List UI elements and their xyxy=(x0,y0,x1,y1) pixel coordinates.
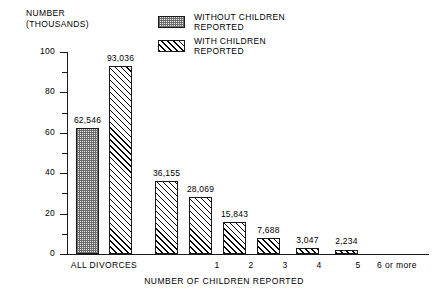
bar xyxy=(296,248,319,254)
y-tick-label: 80 xyxy=(25,86,55,96)
y-axis-title-line2: (THOUSANDS) xyxy=(26,19,89,29)
y-axis-title-line1: NUMBER xyxy=(26,8,65,18)
y-tick-major xyxy=(60,254,68,255)
legend-label: WITHOUT CHILDREN REPORTED xyxy=(194,12,285,32)
y-tick-minor xyxy=(62,113,68,114)
y-tick-label: 20 xyxy=(25,208,55,218)
bar xyxy=(109,66,132,254)
y-tick-minor xyxy=(62,153,68,154)
y-tick-major xyxy=(60,214,68,215)
y-tick-major xyxy=(60,173,68,174)
y-tick-label: 40 xyxy=(25,167,55,177)
legend-swatch xyxy=(158,40,185,52)
y-tick-label: 0 xyxy=(25,248,55,258)
y-tick-major xyxy=(60,133,68,134)
bar xyxy=(189,197,212,254)
bar-value-label: 15,843 xyxy=(205,209,265,219)
legend-swatch xyxy=(158,16,185,28)
y-tick-label: 60 xyxy=(25,127,55,137)
y-axis-title: NUMBER (THOUSANDS) xyxy=(26,8,89,30)
y-tick-major xyxy=(60,92,68,93)
bar xyxy=(335,250,358,255)
bar-value-label: 93,036 xyxy=(91,53,151,63)
bar-value-label: 36,155 xyxy=(137,168,197,178)
bar xyxy=(76,128,99,254)
legend-label: WITH CHILDREN REPORTED xyxy=(194,36,266,56)
y-tick-major xyxy=(60,52,68,53)
y-tick-minor xyxy=(62,193,68,194)
y-tick-minor xyxy=(62,234,68,235)
y-tick-minor xyxy=(62,72,68,73)
x-category-label: ALL DIVORCES xyxy=(59,260,149,270)
x-category-label: 6 or more xyxy=(352,260,442,270)
divorces-by-children-bar-chart: NUMBER (THOUSANDS) 02040608010062,54693,… xyxy=(0,0,448,296)
bar-value-label: 28,069 xyxy=(171,184,231,194)
y-tick-label: 100 xyxy=(25,46,55,56)
bar-value-label: 2,234 xyxy=(317,236,377,246)
plot-area: 02040608010062,54693,03636,15528,06915,8… xyxy=(67,52,429,255)
x-axis-line xyxy=(67,254,429,255)
x-axis-title: NUMBER OF CHILDREN REPORTED xyxy=(0,276,448,286)
